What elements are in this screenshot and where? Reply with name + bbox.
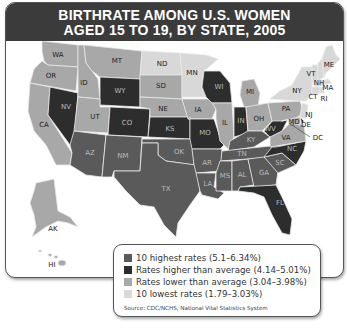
legend-item-lowest: 10 lowest rates (1.79–3.03%) [124, 288, 320, 300]
label-WI: WI [215, 83, 224, 91]
legend-swatch-lowest [124, 290, 132, 298]
label-SD: SD [156, 82, 166, 90]
label-MT: MT [112, 57, 123, 65]
label-TX: TX [160, 185, 170, 193]
label-AK: AK [48, 225, 58, 233]
label-WY: WY [114, 87, 126, 95]
label-LA: LA [204, 180, 213, 188]
legend-label-highest: 10 highest rates (5.1–6.34%) [136, 253, 261, 263]
label-WV: WV [264, 125, 276, 133]
label-IN: IN [237, 117, 244, 125]
legend-swatch-higher [124, 266, 132, 274]
label-KY: KY [247, 136, 256, 144]
label-MN: MN [186, 69, 197, 77]
label-OH: OH [254, 115, 265, 123]
map-title: BIRTHRATE AMONG U.S. WOMEN AGED 15 TO 19… [6, 3, 343, 41]
label-UT: UT [90, 113, 100, 121]
legend-item-higher: Rates higher than average (4.14–5.01%) [124, 264, 320, 276]
label-AR: AR [202, 159, 212, 167]
legend-item-highest: 10 highest rates (5.1–6.34%) [124, 252, 320, 264]
label-AZ: AZ [85, 149, 95, 157]
label-CT: CT [308, 93, 318, 101]
label-DC: DC [313, 134, 323, 142]
label-DE: DE [301, 121, 311, 129]
label-OK: OK [174, 148, 185, 156]
legend-item-lower: Rates lower than average (3.04–3.98%) [124, 276, 320, 288]
label-MD: MD [288, 118, 299, 126]
source-note: Source: CDC/NCHS, National Vital Statist… [124, 305, 320, 311]
us-map-svg: WA OR CA ID MT NV UT WY CO AZ NM ND SD N… [6, 41, 343, 277]
legend-label-lower: Rates lower than average (3.04–3.98%) [136, 277, 307, 287]
label-NM: NM [117, 152, 128, 160]
label-HI: HI [48, 261, 55, 269]
label-NE: NE [158, 105, 168, 113]
title-line-1: BIRTHRATE AMONG U.S. WOMEN [6, 8, 343, 23]
legend-swatch-highest [124, 254, 132, 262]
label-MS: MS [220, 172, 231, 180]
label-VA: VA [281, 134, 290, 142]
label-ID: ID [80, 79, 87, 87]
label-ME: ME [324, 61, 334, 69]
legend-label-lowest: 10 lowest rates (1.79–3.03%) [136, 289, 262, 299]
state-FL [238, 185, 292, 235]
label-CA: CA [39, 121, 49, 129]
label-CO: CO [122, 119, 133, 127]
label-MO: MO [199, 129, 211, 137]
label-IL: IL [222, 119, 228, 127]
label-MA: MA [323, 84, 334, 92]
label-NV: NV [61, 103, 71, 111]
label-NJ: NJ [305, 111, 312, 119]
label-MI: MI [246, 88, 254, 96]
label-TN: TN [236, 150, 247, 158]
label-VT: VT [306, 70, 316, 78]
label-OR: OR [46, 72, 57, 80]
label-GA: GA [259, 169, 269, 177]
label-FL: FL [276, 199, 284, 207]
map-legend: 10 highest rates (5.1–6.34%) Rates highe… [113, 244, 321, 317]
label-AL: AL [238, 171, 247, 179]
label-NC: NC [287, 145, 297, 153]
label-ND: ND [157, 60, 168, 68]
label-SC: SC [275, 159, 284, 167]
label-NY: NY [292, 87, 302, 95]
label-KS: KS [165, 125, 175, 133]
legend-swatch-lower [124, 278, 132, 286]
legend-label-higher: Rates higher than average (4.14–5.01%) [136, 265, 311, 275]
label-RI: RI [321, 95, 328, 103]
map-card: BIRTHRATE AMONG U.S. WOMEN AGED 15 TO 19… [5, 2, 344, 278]
label-IA: IA [195, 106, 202, 114]
label-WA: WA [52, 51, 64, 59]
title-line-2: AGED 15 TO 19, BY STATE, 2005 [6, 23, 343, 38]
us-map: WA OR CA ID MT NV UT WY CO AZ NM ND SD N… [6, 41, 343, 277]
label-PA: PA [282, 105, 291, 113]
